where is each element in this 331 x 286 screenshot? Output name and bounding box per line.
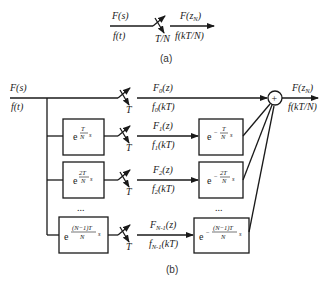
svg-text:T: T	[222, 125, 226, 132]
a-output-time-label: f(kT/N)	[175, 30, 205, 42]
svg-text:e: e	[64, 231, 69, 242]
svg-text:N: N	[220, 233, 226, 240]
a-input-freq-label: F(s)	[111, 10, 129, 22]
b-row2-period-label: T	[126, 186, 133, 197]
b-left-ellipsis: ...	[77, 202, 85, 213]
b-row1-freq-label: F1(z)	[152, 120, 174, 132]
svg-text:e: e	[207, 131, 212, 142]
diagram-a: F(s) f(t) T/N F(zN) f(kT/N) (a)	[110, 10, 214, 64]
b-output-freq-label: F(zN)	[291, 82, 314, 94]
plus-icon: +	[272, 93, 278, 104]
b-row2-freq-label: F2(z)	[152, 164, 174, 176]
b-row0-period-label: T	[126, 104, 133, 115]
svg-text:T: T	[81, 125, 85, 132]
svg-text:N: N	[220, 133, 226, 140]
b-row2-sampler-switch-icon	[118, 170, 130, 187]
svg-text:e: e	[207, 175, 212, 186]
b-row0-freq-label: F0(z)	[152, 82, 174, 94]
svg-text:(N−1)T: (N−1)T	[72, 224, 92, 232]
a-switch-period-label: T/N	[155, 33, 171, 44]
svg-text:e: e	[73, 175, 78, 186]
b-row1-period-label: T	[126, 142, 133, 153]
b-row0-sampler-switch-icon	[118, 88, 130, 105]
b-row-0: T F0(z) f0(kT)	[118, 82, 267, 115]
a-input-time-label: f(t)	[113, 30, 126, 42]
b-row1-time-label: f1(kT)	[152, 139, 175, 151]
svg-text:N: N	[221, 177, 227, 184]
b-rowN1-period-label: T	[126, 241, 133, 252]
b-summing-junction: +	[268, 91, 282, 105]
svg-text:2T: 2T	[79, 169, 86, 176]
svg-text:2T: 2T	[220, 169, 227, 176]
b-right-ellipsis: ...	[215, 202, 223, 213]
a-output-freq-label: F(zN)	[179, 10, 202, 22]
b-input-time-label: f(t)	[11, 101, 24, 113]
b-row2-delay-block	[199, 162, 243, 198]
svg-text:(N−1)T: (N−1)T	[213, 224, 233, 232]
svg-text:−: −	[214, 173, 218, 180]
b-row0-time-label: f0(kT)	[152, 101, 175, 113]
b-rowN1-sampler-switch-icon	[118, 225, 130, 242]
svg-text:N: N	[80, 177, 86, 184]
b-row1-sampler-switch-icon	[118, 126, 130, 143]
b-row1-advance-expr: e	[73, 131, 78, 142]
b-rowN1-time-label: fN-1(kT)	[149, 238, 179, 250]
caption-a: (a)	[160, 53, 172, 64]
b-row2-time-label: f2(kT)	[152, 183, 175, 195]
svg-text:e: e	[199, 231, 204, 242]
b-input-freq-label: F(s)	[9, 82, 27, 94]
svg-text:−: −	[206, 229, 210, 236]
b-output-time-label: f(kT/N)	[288, 101, 318, 113]
sampling-diagram: F(s) f(t) T/N F(zN) f(kT/N) (a) F(s) f(t…	[0, 0, 331, 286]
svg-text:−: −	[214, 129, 218, 136]
b-rowN1-freq-label: FN-1(z)	[149, 219, 177, 231]
diagram-b: F(s) f(t) T F0(z) f0(kT) e T N s	[9, 82, 318, 275]
svg-text:N: N	[79, 133, 85, 140]
a-sampler-switch-icon	[153, 16, 165, 33]
caption-b: (b)	[166, 264, 178, 275]
svg-text:N: N	[79, 233, 85, 240]
